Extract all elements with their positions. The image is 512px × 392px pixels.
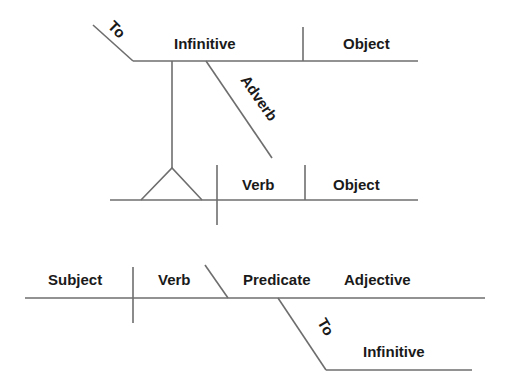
infinitive-label: Infinitive [363,343,425,360]
to-label: To [105,17,129,41]
infinitive-label: Infinitive [174,35,236,52]
top-clause: To Infinitive Object Adverb [93,17,418,168]
middle-clause: Verb Object [110,165,418,225]
stilt-triangle [141,168,202,200]
to-label: To [314,315,337,338]
bottom-clause: Subject Verb Predicate Adjective To Infi… [25,265,485,370]
to-diagonal-line [278,298,326,370]
verb-label: Verb [242,176,275,193]
verb-label: Verb [158,271,191,288]
predicate-label: Predicate [243,271,311,288]
adjective-label: Adjective [344,271,411,288]
object-label: Object [333,176,380,193]
predicate-slant-line [205,265,228,298]
subject-label: Subject [48,271,102,288]
sentence-diagram: To Infinitive Object Adverb Verb Object … [0,0,512,392]
object-label: Object [343,35,390,52]
